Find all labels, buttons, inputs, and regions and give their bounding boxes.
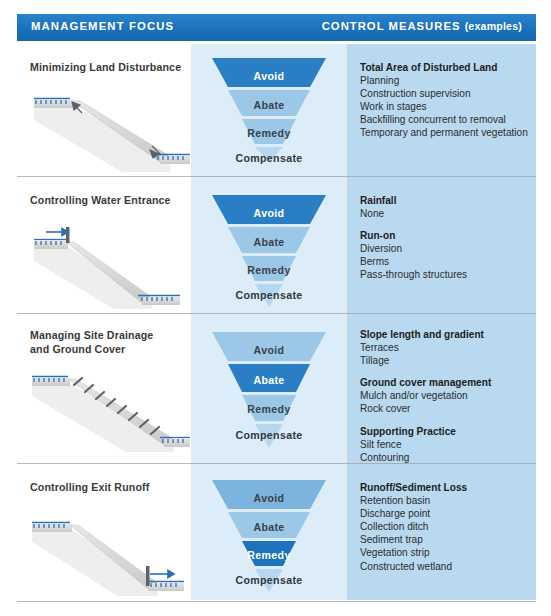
measures-list: Rainfall None Run-on Diversion Berms Pas… [360, 194, 467, 282]
measure-item: Berms [360, 255, 467, 268]
measure-item: Work in stages [360, 100, 528, 113]
measure-item: Diversion [360, 242, 467, 255]
funnel-band-abate [228, 227, 310, 253]
outflow-arrow-icon [150, 571, 174, 578]
measure-item: Mulch and/or vegetation [360, 389, 491, 402]
measure-group-heading: Total Area of Disturbed Land [360, 61, 528, 74]
measure-item: Tillage [360, 354, 491, 367]
funnel-band-compensate [255, 424, 283, 448]
table-row: Managing Site Drainage and Ground Cover [0, 314, 551, 463]
measure-item: Retention basin [360, 494, 467, 507]
measure-item: Construction supervision [360, 87, 528, 100]
measure-item: Backfilling concurrent to removal [360, 113, 528, 126]
funnel-chart [210, 54, 328, 164]
header-examples-text: (examples) [465, 20, 522, 32]
measure-item: Planning [360, 74, 528, 87]
funnel-band-remedy [242, 395, 296, 421]
measure-item: Constructed wetland [360, 560, 467, 573]
funnel-chart [210, 328, 328, 450]
measure-item: None [360, 207, 467, 220]
funnel-band-avoid [212, 58, 326, 87]
funnel-band-remedy [242, 541, 296, 566]
funnel-chart [210, 476, 328, 594]
funnel-band-compensate [255, 284, 283, 307]
measure-item: Sediment trap [360, 533, 467, 546]
measure-item: Silt fence [360, 438, 491, 451]
barrier-icon [146, 566, 150, 586]
measure-item: Terraces [360, 341, 491, 354]
funnel-band-remedy [242, 119, 296, 144]
header-control-measures-text: CONTROL MEASURES [322, 20, 461, 32]
measure-group: Supporting Practice Silt fence Contourin… [360, 425, 491, 464]
table-row: Minimizing Land Disturbance [0, 44, 551, 176]
slope-diagram [22, 362, 192, 462]
measure-item: Rock cover [360, 402, 491, 415]
header-management-focus-label: MANAGEMENT FOCUS [31, 20, 174, 32]
measure-item: Discharge point [360, 507, 467, 520]
funnel-band-avoid [212, 332, 326, 361]
measure-group: Run-on Diversion Berms Pass-through stru… [360, 229, 467, 281]
measure-item: Collection ditch [360, 520, 467, 533]
measure-item: Pass-through structures [360, 268, 467, 281]
table-row: Controlling Water Entrance [0, 177, 551, 313]
measure-item: Contouring [360, 451, 491, 464]
measures-list: Total Area of Disturbed Land Planning Co… [360, 61, 528, 140]
funnel-band-avoid [212, 195, 326, 224]
measure-group-heading: Rainfall [360, 194, 467, 207]
slope-diagram [22, 217, 192, 312]
inflow-arrow-icon [46, 229, 68, 236]
funnel-band-avoid [212, 480, 326, 509]
measure-group-heading: Run-on [360, 229, 467, 242]
barrier-icon [66, 227, 70, 243]
funnel-band-remedy [242, 256, 296, 281]
measures-list: Runoff/Sediment Loss Retention basin Dis… [360, 481, 467, 573]
measures-list: Slope length and gradient Terraces Tilla… [360, 328, 491, 464]
measure-group: Rainfall None [360, 194, 467, 220]
measure-item: Vegetation strip [360, 546, 467, 559]
measure-group-heading: Slope length and gradient [360, 328, 491, 341]
measure-group: Total Area of Disturbed Land Planning Co… [360, 61, 528, 140]
slope-diagram [22, 84, 192, 176]
measure-group-heading: Supporting Practice [360, 425, 491, 438]
funnel-band-abate [228, 364, 310, 392]
funnel-band-compensate [255, 569, 283, 592]
table-row: Controlling Exit Runoff [0, 464, 551, 601]
focus-title: Controlling Exit Runoff [30, 481, 149, 495]
measure-item: Temporary and permanent vegetation [360, 126, 528, 139]
measure-group-heading: Ground cover management [360, 376, 491, 389]
funnel-band-compensate [255, 147, 283, 162]
header-bar: MANAGEMENT FOCUS CONTROL MEASURES (examp… [17, 14, 536, 41]
funnel-chart [210, 191, 328, 309]
focus-title: Managing Site Drainage and Ground Cover [30, 329, 153, 356]
measure-group-heading: Runoff/Sediment Loss [360, 481, 467, 494]
header-control-measures-label: CONTROL MEASURES (examples) [322, 20, 522, 32]
focus-title: Controlling Water Entrance [30, 194, 171, 208]
funnel-band-abate [228, 512, 310, 538]
measure-group: Slope length and gradient Terraces Tilla… [360, 328, 491, 367]
focus-title: Minimizing Land Disturbance [30, 61, 181, 75]
funnel-band-abate [228, 90, 310, 116]
measure-group: Ground cover management Mulch and/or veg… [360, 376, 491, 415]
measure-group: Runoff/Sediment Loss Retention basin Dis… [360, 481, 467, 573]
slope-diagram [22, 502, 192, 602]
diagram-page: MANAGEMENT FOCUS CONTROL MEASURES (examp… [0, 0, 551, 616]
